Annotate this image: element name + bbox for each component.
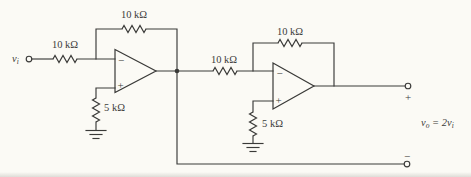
wire bbox=[253, 101, 273, 112]
resistor-interstage-label: 10 kΩ bbox=[211, 54, 237, 65]
output-terminal-minus bbox=[404, 161, 410, 167]
wire bbox=[177, 71, 404, 164]
input-terminal bbox=[26, 56, 32, 62]
resistor-ground2-label: 5 kΩ bbox=[262, 118, 283, 129]
resistor-ground1-label: 5 kΩ bbox=[104, 102, 125, 113]
resistor-input-10k bbox=[53, 56, 77, 63]
circuit-diagram: vi 10 kΩ 10 kΩ − + 5 kΩ 10 kΩ 10 kΩ − + … bbox=[0, 0, 471, 177]
opamp2-noninverting-input-sign: + bbox=[275, 94, 281, 106]
output-terminal-plus bbox=[405, 83, 411, 89]
output-plus-sign: + bbox=[405, 91, 411, 103]
wire bbox=[96, 88, 115, 98]
opamp1-noninverting-input-sign: + bbox=[117, 79, 123, 91]
resistor-ground1-5k bbox=[93, 98, 100, 122]
resistor-input-label: 10 kΩ bbox=[52, 39, 78, 50]
wire bbox=[253, 43, 278, 71]
resistor-feedback2-label: 10 kΩ bbox=[277, 26, 303, 37]
resistor-ground2-5k bbox=[250, 112, 257, 136]
ground2-symbol bbox=[243, 144, 263, 152]
wire bbox=[146, 29, 177, 71]
output-minus-sign: − bbox=[404, 150, 410, 162]
opamp-cascade-circuit-figure: vi 10 kΩ 10 kΩ − + 5 kΩ 10 kΩ 10 kΩ − + … bbox=[0, 0, 471, 177]
resistor-feedback2-10k bbox=[278, 40, 302, 47]
input-voltage-label: vi bbox=[12, 53, 19, 66]
wire bbox=[302, 43, 334, 86]
output-equation: vo = 2vi bbox=[421, 117, 454, 130]
resistor-feedback1-label: 10 kΩ bbox=[121, 9, 147, 20]
ground1-symbol bbox=[86, 131, 106, 139]
resistor-feedback1-10k bbox=[122, 26, 146, 33]
opamp2-inverting-input-sign: − bbox=[276, 67, 282, 79]
resistor-interstage-10k bbox=[213, 68, 237, 75]
opamp1-inverting-input-sign: − bbox=[118, 54, 124, 66]
